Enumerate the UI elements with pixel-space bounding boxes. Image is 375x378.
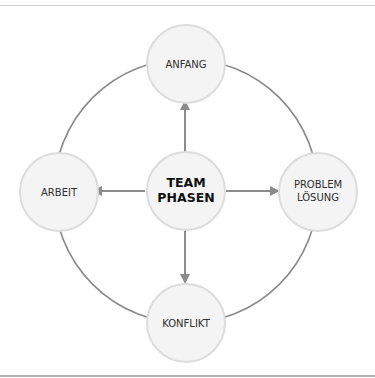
node-label-loesung: LÖSUNG bbox=[297, 191, 339, 203]
node-arbeit: ARBEIT bbox=[20, 153, 98, 231]
center-label-team: TEAM bbox=[166, 175, 205, 190]
node-center-team-phasen: TEAM PHASEN bbox=[147, 152, 225, 230]
node-konflikt: KONFLIKT bbox=[147, 284, 225, 362]
center-label-phasen: PHASEN bbox=[157, 190, 214, 205]
diagram-canvas: ANFANG PROBLEM LÖSUNG KONFLIKT ARBEIT TE… bbox=[0, 0, 375, 378]
node-anfang: ANFANG bbox=[147, 25, 225, 103]
team-phases-diagram: ANFANG PROBLEM LÖSUNG KONFLIKT ARBEIT TE… bbox=[0, 0, 375, 378]
bottom-divider bbox=[0, 375, 375, 377]
node-label-anfang: ANFANG bbox=[165, 59, 206, 70]
node-label-konflikt: KONFLIKT bbox=[162, 318, 210, 329]
node-label-arbeit: ARBEIT bbox=[41, 187, 78, 198]
node-problem-loesung: PROBLEM LÖSUNG bbox=[279, 153, 357, 231]
node-label-problem: PROBLEM bbox=[294, 179, 342, 190]
